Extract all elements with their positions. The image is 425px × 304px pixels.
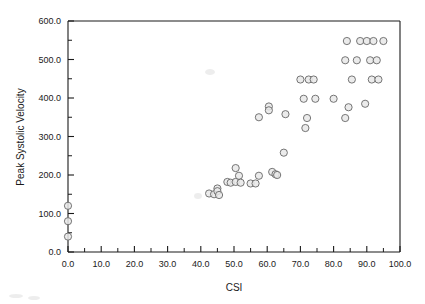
data-point: [280, 149, 287, 156]
scatter-plot-figure: 0.0100.0200.0300.0400.0500.0600.0 0.010.…: [0, 0, 425, 304]
x-tick-label: 0.0: [62, 259, 75, 269]
data-point: [255, 172, 262, 179]
x-tick-label: 100.0: [389, 259, 412, 269]
data-point: [310, 76, 317, 83]
data-point: [370, 37, 377, 44]
data-point: [303, 114, 310, 121]
data-point: [237, 179, 244, 186]
scan-artifact: [205, 69, 215, 75]
data-point: [312, 95, 319, 102]
data-point: [380, 37, 387, 44]
y-tick-label: 300.0: [38, 132, 61, 142]
x-tick-label: 50.0: [225, 259, 243, 269]
data-point: [363, 37, 370, 44]
y-tick-label: 0.0: [48, 247, 61, 257]
data-point: [357, 37, 364, 44]
x-tick-label: 10.0: [92, 259, 110, 269]
y-axis-title: Peak Systolic Velocity: [15, 88, 26, 185]
x-tick-label: 90.0: [358, 259, 376, 269]
data-point: [265, 107, 272, 114]
data-point: [375, 76, 382, 83]
data-point: [330, 95, 337, 102]
data-point: [64, 202, 71, 209]
data-point: [348, 76, 355, 83]
y-tick-label: 500.0: [38, 55, 61, 65]
data-point: [300, 95, 307, 102]
data-point: [274, 171, 281, 178]
x-tick-label: 40.0: [192, 259, 210, 269]
data-point: [232, 164, 239, 171]
data-point: [252, 180, 259, 187]
data-point: [342, 114, 349, 121]
data-point: [255, 114, 262, 121]
y-tick-label: 400.0: [38, 93, 61, 103]
data-point: [342, 57, 349, 64]
scan-artifact: [194, 193, 202, 199]
data-point: [64, 233, 71, 240]
data-point: [345, 104, 352, 111]
scan-artifact: [9, 294, 23, 298]
y-tick-label: 600.0: [38, 16, 61, 26]
y-tick-label: 200.0: [38, 170, 61, 180]
data-point: [215, 191, 222, 198]
data-point: [64, 218, 71, 225]
data-point: [302, 124, 309, 131]
x-tick-label: 20.0: [126, 259, 144, 269]
data-point: [343, 37, 350, 44]
data-point: [353, 57, 360, 64]
data-point: [235, 172, 242, 179]
data-point: [367, 57, 374, 64]
x-tick-label: 70.0: [292, 259, 310, 269]
x-tick-label: 30.0: [159, 259, 177, 269]
data-point: [282, 111, 289, 118]
data-point: [368, 76, 375, 83]
x-tick-label: 80.0: [325, 259, 343, 269]
chart-canvas: 0.0100.0200.0300.0400.0500.0600.0 0.010.…: [0, 0, 425, 304]
data-point: [373, 57, 380, 64]
x-tick-label: 60.0: [258, 259, 276, 269]
data-point: [362, 100, 369, 107]
data-point: [297, 76, 304, 83]
scan-artifact: [28, 296, 40, 300]
x-axis-title: CSI: [226, 282, 243, 293]
y-tick-label: 100.0: [38, 209, 61, 219]
